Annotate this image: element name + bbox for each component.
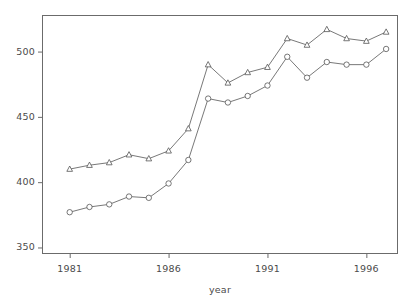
plot-area	[0, 0, 415, 307]
data-point-marker	[126, 194, 131, 199]
x-axis-tick-label: 1996	[341, 263, 391, 274]
data-point-marker	[284, 35, 290, 40]
series-lower	[67, 46, 389, 215]
y-axis-tick-label: 400	[2, 176, 35, 187]
data-point-marker	[146, 195, 151, 200]
data-point-marker	[265, 83, 270, 88]
y-axis-tick-label: 500	[2, 46, 35, 57]
chart-container: 350400450500 1981198619911996 year	[0, 0, 415, 307]
data-point-marker	[364, 62, 369, 67]
data-point-marker	[324, 26, 330, 31]
data-point-marker	[166, 181, 171, 186]
y-axis-ticks	[38, 52, 42, 248]
series-line-upper	[70, 29, 386, 169]
data-point-marker	[126, 152, 132, 157]
x-axis-tick-label: 1981	[45, 263, 95, 274]
data-point-marker	[344, 35, 350, 40]
data-point-marker	[205, 96, 210, 101]
data-series-layer	[67, 26, 389, 215]
data-point-marker	[186, 157, 191, 162]
data-point-marker	[324, 59, 329, 64]
data-point-marker	[285, 54, 290, 59]
data-point-marker	[344, 62, 349, 67]
data-point-marker	[87, 204, 92, 209]
x-axis-ticks	[70, 254, 367, 258]
series-upper	[67, 26, 389, 171]
data-point-marker	[383, 29, 389, 34]
series-line-lower	[70, 49, 386, 212]
data-point-marker	[186, 126, 192, 131]
data-point-marker	[304, 75, 309, 80]
plot-frame	[43, 16, 398, 254]
data-point-marker	[107, 202, 112, 207]
x-axis-title: year	[42, 284, 398, 295]
data-point-marker	[383, 46, 388, 51]
y-axis-tick-label: 450	[2, 111, 35, 122]
x-axis-tick-label: 1991	[242, 263, 292, 274]
y-axis-tick-label: 350	[2, 241, 35, 252]
x-axis-tick-label: 1986	[144, 263, 194, 274]
data-point-marker	[225, 100, 230, 105]
data-point-marker	[67, 210, 72, 215]
data-point-marker	[245, 93, 250, 98]
data-point-marker	[205, 62, 211, 67]
